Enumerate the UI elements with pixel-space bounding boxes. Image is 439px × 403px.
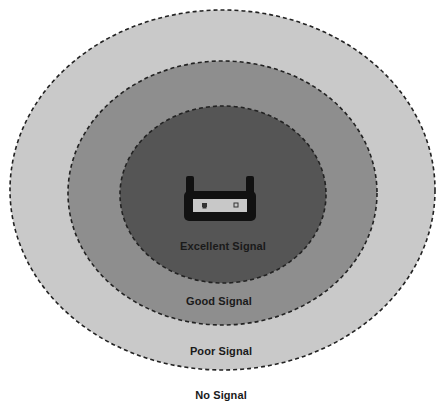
excellent-signal-label: Excellent Signal	[180, 240, 266, 252]
good-signal-label: Good Signal	[186, 295, 252, 307]
no-signal-label: No Signal	[195, 389, 247, 401]
poor-signal-label: Poor Signal	[190, 345, 252, 357]
coverage-diagram	[0, 0, 439, 403]
